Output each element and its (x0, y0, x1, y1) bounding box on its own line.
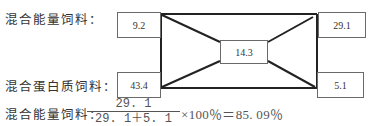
fraction-numerator: 29. 1 (87, 97, 180, 112)
fraction: 29. 1 29. 1＋5. 1 (87, 97, 180, 126)
box-protein-parts: 5.1 (317, 72, 364, 98)
formula-result: ×100％＝85. 09％ (181, 104, 283, 123)
energy-feed-label: 混合能量饲料： (5, 9, 103, 28)
box-target-value: 14.3 (220, 40, 268, 64)
fraction-denominator: 29. 1＋5. 1 (87, 112, 180, 126)
box-protein-value: 43.4 (117, 72, 161, 98)
diagonal-top-left (162, 15, 220, 42)
diagonal-bottom-left (162, 61, 220, 87)
box-energy-value: 9.2 (117, 12, 161, 38)
box-energy-parts: 29.1 (318, 12, 366, 38)
diagonal-top-right (268, 17, 313, 42)
diagonal-bottom-right (268, 61, 315, 87)
protein-feed-label: 混合蛋白质饲料： (5, 76, 117, 95)
